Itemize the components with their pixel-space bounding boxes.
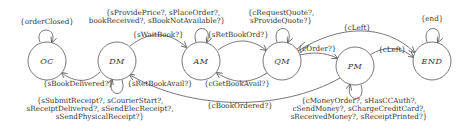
label-dm-to-am: {sWaitBook?} xyxy=(132,30,183,39)
label-dm-loop: {sRetBookAvail?} xyxy=(127,79,192,88)
label-end-loop: {end} xyxy=(421,14,444,23)
svg-text:OC: OC xyxy=(40,57,54,66)
label-dm-bottom-3: sSendPhysicalReceipt?} xyxy=(56,112,144,121)
svg-text:AM: AM xyxy=(193,57,209,66)
state-qm: QM xyxy=(263,42,301,80)
edge-qm-to-pm xyxy=(300,53,337,58)
edge-am-to-qm xyxy=(218,41,266,50)
edge-oc-loop xyxy=(39,30,53,42)
edge-qm-loop xyxy=(276,29,289,43)
label-oc-loop: {orderClosed} xyxy=(20,17,74,26)
label-qm-to-end: {cLeft} xyxy=(343,23,371,32)
diagram-svg: OC DM AM QM PM END {orderClosed} {sProvi… xyxy=(0,0,468,130)
svg-text:QM: QM xyxy=(274,57,290,66)
svg-text:DM: DM xyxy=(108,57,125,66)
label-qm-to-am: {cGetBookAvail?} xyxy=(204,79,270,88)
label-pm-loop-3: sReceivedMoney?, sReceiptPrinted?} xyxy=(291,112,428,121)
state-oc: OC xyxy=(28,42,66,80)
label-am-loop: {sRetBookOrd?} xyxy=(207,30,268,39)
label-qm-loop-2: sProvideQuote?} xyxy=(250,16,312,25)
state-pm: PM xyxy=(336,47,374,85)
edge-end-loop xyxy=(426,29,439,43)
svg-text:END: END xyxy=(421,57,443,66)
label-dm-am-top-2: bookReceived?, sBookNotAvailable?} xyxy=(89,16,225,25)
svg-text:PM: PM xyxy=(347,62,363,71)
label-pm-to-end: {cLeft} xyxy=(378,45,406,54)
label-dm-to-oc: {sBookDelivered?} xyxy=(43,79,113,88)
label-qm-to-pm: {cOrder?} xyxy=(298,44,337,53)
label-pm-to-dm: {cBookOrdered?} xyxy=(207,101,273,110)
state-end: END xyxy=(413,42,451,80)
state-diagram: OC DM AM QM PM END {orderClosed} {sProvi… xyxy=(0,0,468,130)
state-dm: DM xyxy=(98,42,136,80)
state-am: AM xyxy=(182,42,220,80)
